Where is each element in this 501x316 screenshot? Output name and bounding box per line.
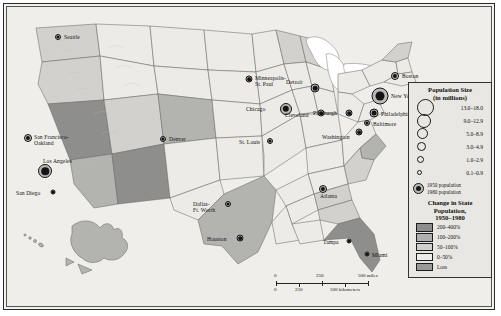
legend-size-row: 0.1–0.9 bbox=[417, 166, 487, 179]
legend-size-label: 9.0–12.9 bbox=[463, 118, 487, 124]
legend-size-row: 9.0–12.9 bbox=[417, 114, 487, 127]
city-label: Boston bbox=[402, 73, 418, 79]
city-label: Houston bbox=[207, 236, 227, 242]
legend-change-title-line1: Change in State bbox=[413, 199, 487, 207]
legend-change-label: 100–200% bbox=[437, 234, 460, 240]
scale-km-end: 500 kilometers bbox=[330, 287, 360, 292]
legend-year-note-text: 1950 population 1980 population bbox=[425, 182, 461, 195]
city-label: Pittsburgh bbox=[313, 110, 337, 116]
legend-change-swatch bbox=[416, 243, 433, 252]
legend-size-circle-icon bbox=[417, 156, 424, 163]
legend-size-label: 1.0–2.9 bbox=[466, 157, 487, 163]
legend-size-label: 0.1–0.9 bbox=[466, 170, 487, 176]
legend-change-title: Change in State Population, 1950–1980 bbox=[413, 199, 487, 222]
legend-change-row: 50–100% bbox=[416, 243, 487, 252]
city-1950-dot bbox=[357, 130, 361, 134]
city-label: Atlanta bbox=[320, 193, 337, 199]
legend-change-swatch bbox=[416, 253, 433, 262]
legend-change-label: Loss bbox=[437, 264, 447, 270]
city-label: Los Angeles bbox=[43, 158, 72, 164]
city-label: Chicago bbox=[246, 106, 265, 112]
scale-km-mid: 250 bbox=[295, 287, 303, 292]
legend-change-row: Loss bbox=[416, 263, 487, 272]
legend-size-circle-icon bbox=[417, 142, 426, 151]
legend-change-title-line2: Population, bbox=[413, 207, 487, 215]
legend-note-1980: 1980 population bbox=[427, 189, 461, 195]
legend-change-swatch bbox=[416, 263, 433, 272]
city-label: Denver bbox=[169, 136, 186, 142]
scale-miles-end: 500 miles bbox=[358, 273, 378, 278]
map-legend: Population Size (in millions) 13.0–18.09… bbox=[408, 82, 492, 278]
legend-change-title-line3: 1950–1980 bbox=[413, 214, 487, 222]
city-label: Minneapolis- St. Paul bbox=[255, 75, 286, 87]
legend-size-circle-icon bbox=[417, 170, 422, 175]
legend-change-label: 0–50% bbox=[437, 254, 452, 260]
scale-km-start: 0 bbox=[274, 287, 277, 292]
city-1950-dot bbox=[41, 167, 49, 175]
city-1950-dot bbox=[227, 203, 230, 206]
city-1950-dot bbox=[52, 191, 55, 194]
legend-change-label: 50–100% bbox=[437, 244, 458, 250]
city-label: Cleveland bbox=[285, 112, 309, 118]
legend-size-label: 5.0–8.9 bbox=[466, 131, 487, 137]
city-1950-dot bbox=[348, 240, 351, 243]
legend-size-row: 1.0–2.9 bbox=[417, 153, 487, 166]
legend-size-circle-icon bbox=[417, 128, 428, 139]
legend-size-row: 3.0–4.9 bbox=[417, 140, 487, 153]
city-1950-dot bbox=[372, 111, 377, 116]
city-label: San Francisco- Oakland bbox=[34, 134, 69, 146]
legend-size-row: 5.0–8.9 bbox=[417, 127, 487, 140]
legend-change-row: 0–50% bbox=[416, 253, 487, 262]
city-label: Tampa bbox=[323, 239, 339, 245]
city-label: Miami bbox=[372, 252, 387, 258]
legend-change-classes: 200–400%100–200%50–100%0–50%Loss bbox=[413, 223, 487, 271]
city-1950-dot bbox=[366, 253, 369, 256]
legend-size-classes: 13.0–18.09.0–12.95.0–8.93.0–4.91.0–2.90.… bbox=[413, 101, 487, 179]
legend-size-circle-icon bbox=[417, 114, 431, 128]
city-1950-dot bbox=[313, 86, 318, 91]
scale-miles-mid: 250 bbox=[316, 273, 324, 278]
city-label: Philadelphia bbox=[381, 111, 410, 117]
city-label: Detroit bbox=[286, 79, 303, 85]
city-label: San Diego bbox=[16, 190, 40, 196]
city-label: Seattle bbox=[64, 34, 80, 40]
scale-miles-start: 0 bbox=[274, 273, 277, 278]
city-1950-dot bbox=[238, 236, 242, 240]
legend-year-note: 1950 population 1980 population bbox=[413, 182, 487, 195]
city-label: Baltimore bbox=[373, 121, 396, 127]
legend-size-row: 13.0–18.0 bbox=[417, 101, 487, 114]
city-label: Dallas- Ft. Worth bbox=[193, 201, 215, 213]
legend-change-swatch bbox=[416, 223, 433, 232]
two-tone-circle-icon bbox=[413, 183, 425, 195]
city-label: St. Louis bbox=[239, 139, 260, 145]
city-1950-dot bbox=[376, 92, 385, 101]
legend-change-row: 100–200% bbox=[416, 233, 487, 242]
legend-size-title-line1: Population Size bbox=[413, 86, 487, 94]
city-1950-dot bbox=[366, 122, 369, 125]
legend-note-1950: 1950 population bbox=[427, 182, 461, 188]
legend-size-label: 3.0–4.9 bbox=[466, 144, 487, 150]
city-1950-dot bbox=[347, 111, 351, 115]
legend-change-label: 200–400% bbox=[437, 224, 460, 230]
city-1950-dot bbox=[247, 77, 251, 81]
map-screenshot: .st{stroke:#6a6a6a;stroke-width:.55;} .c… bbox=[0, 0, 501, 316]
legend-size-label: 13.0–18.0 bbox=[461, 105, 487, 111]
city-1950-dot bbox=[57, 36, 60, 39]
city-label: Washington bbox=[322, 134, 350, 140]
legend-change-swatch bbox=[416, 233, 433, 242]
legend-change-row: 200–400% bbox=[416, 223, 487, 232]
